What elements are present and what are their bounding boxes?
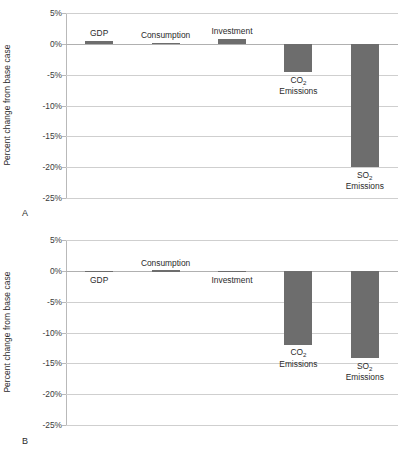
bar — [218, 271, 246, 273]
panel-letter-a: A — [22, 208, 28, 218]
y-tick-mark — [62, 198, 66, 199]
panel-letter-b: B — [22, 436, 28, 446]
y-tick-labels: 5%0%-5%-10%-15%-20%-25% — [26, 240, 62, 425]
plot-area-a: 5%0%-5%-10%-15%-20%-25% GDPConsumptionIn… — [66, 13, 398, 198]
y-tick-label: -15% — [42, 358, 62, 368]
gridline — [66, 44, 398, 45]
y-tick-label: -10% — [42, 328, 62, 338]
bar-label: SO2Emissions — [346, 361, 384, 382]
y-tick-mark — [62, 75, 66, 76]
gridline — [66, 394, 398, 395]
plot-area-b: 5%0%-5%-10%-15%-20%-25% GDPConsumptionIn… — [66, 240, 398, 425]
y-tick-mark — [62, 302, 66, 303]
y-tick-mark — [62, 425, 66, 426]
bar-label: GDP — [90, 275, 108, 285]
gridline — [66, 75, 398, 76]
bar-label: CO2Emissions — [279, 347, 317, 368]
y-tick-mark — [62, 106, 66, 107]
gridline — [66, 106, 398, 107]
y-tick-mark — [62, 167, 66, 168]
y-tick-mark — [62, 271, 66, 272]
bar-label: SO2Emissions — [346, 170, 384, 191]
y-tick-label: 5% — [50, 235, 62, 245]
y-tick-label: 0% — [50, 39, 62, 49]
y-tick-mark — [62, 333, 66, 334]
y-tick-mark — [62, 44, 66, 45]
bar — [284, 44, 312, 72]
y-tick-mark — [62, 13, 66, 14]
bar — [85, 41, 113, 44]
bar — [152, 270, 180, 272]
gridline — [66, 13, 398, 14]
y-tick-label: -20% — [42, 389, 62, 399]
chart-panel-a: Percent change from base case 5%0%-5%-10… — [0, 0, 405, 229]
gridline — [66, 136, 398, 137]
bar — [218, 39, 246, 44]
gridline — [66, 302, 398, 303]
gridline — [66, 198, 398, 199]
bar-series: GDPConsumptionInvestmentCO2EmissionsSO2E… — [66, 13, 398, 198]
y-axis-title: Percent change from base case — [0, 237, 14, 427]
bar-label: CO2Emissions — [279, 75, 317, 96]
y-tick-mark — [62, 136, 66, 137]
chart-panel-b: Percent change from base case 5%0%-5%-10… — [0, 229, 405, 458]
bar-label: Investment — [212, 26, 253, 36]
bar — [85, 271, 113, 273]
gridline — [66, 425, 398, 426]
bar-series: GDPConsumptionInvestmentCO2EmissionsSO2E… — [66, 240, 398, 425]
bar — [152, 43, 180, 45]
bar-label: Consumption — [141, 258, 190, 268]
gridline — [66, 333, 398, 334]
y-tick-label: -15% — [42, 131, 62, 141]
y-tick-label: 5% — [50, 8, 62, 18]
y-tick-mark — [62, 240, 66, 241]
bar — [351, 271, 379, 359]
y-tick-label: -10% — [42, 101, 62, 111]
y-tick-labels: 5%0%-5%-10%-15%-20%-25% — [26, 13, 62, 198]
figure-two-panel-bar-chart: Percent change from base case 5%0%-5%-10… — [0, 0, 405, 458]
y-tick-mark — [62, 394, 66, 395]
bar-label: GDP — [90, 28, 108, 38]
y-tick-label: -25% — [42, 193, 62, 203]
gridline — [66, 167, 398, 168]
bar — [284, 271, 312, 345]
y-tick-label: 0% — [50, 266, 62, 276]
y-tick-label: -5% — [47, 297, 62, 307]
bar — [351, 44, 379, 167]
y-tick-mark — [62, 363, 66, 364]
y-tick-label: -25% — [42, 420, 62, 430]
gridline — [66, 240, 398, 241]
y-tick-label: -20% — [42, 162, 62, 172]
bar-label: Investment — [212, 275, 253, 285]
y-tick-label: -5% — [47, 70, 62, 80]
y-axis-title: Percent change from base case — [0, 10, 14, 200]
bar-label: Consumption — [141, 30, 190, 40]
